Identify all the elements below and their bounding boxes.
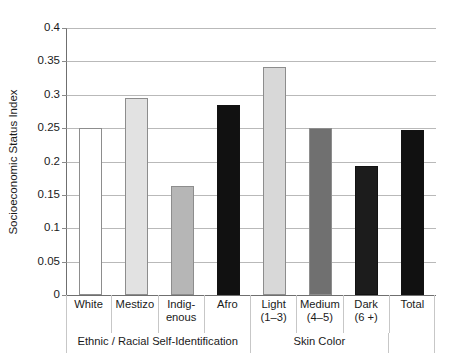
category-label-line2: enous <box>166 311 196 324</box>
category-label-line1: Medium <box>300 298 340 311</box>
y-axis-tick-label: 0.35 <box>38 56 60 68</box>
gridline <box>67 195 436 196</box>
plot-area <box>66 28 435 295</box>
bar <box>263 67 286 295</box>
bar-chart-figure: Socioeconomic Status Index 00.050.10.150… <box>0 0 453 364</box>
category-label: Afro <box>205 295 251 333</box>
category-label: Medium(4–5) <box>297 295 343 333</box>
bar <box>125 98 148 295</box>
y-axis-tick-label: 0.25 <box>38 122 60 134</box>
gridline <box>67 228 436 229</box>
y-axis-tick-mark <box>62 262 67 263</box>
y-axis-tick-label: 0.1 <box>44 223 60 235</box>
category-label-line1: Dark <box>354 298 378 311</box>
y-axis-tick-mark <box>62 162 67 163</box>
bar <box>171 186 194 295</box>
category-label-line1: Total <box>401 298 425 311</box>
category-label-line1: Afro <box>217 298 238 311</box>
y-axis-title: Socioeconomic Status Index <box>4 28 22 295</box>
gridline <box>67 128 436 129</box>
category-label: Indig-enous <box>159 295 205 333</box>
category-label: White <box>66 295 112 333</box>
y-axis-tick-label: 0.2 <box>44 156 60 168</box>
category-label: Dark(6 +) <box>344 295 390 333</box>
gridline <box>67 28 436 29</box>
group-label <box>389 333 435 353</box>
category-label-line2: (1–3) <box>261 311 287 324</box>
gridline <box>67 162 436 163</box>
gridline <box>67 95 436 96</box>
y-axis-tick-mark <box>62 228 67 229</box>
y-axis-tick-label: 0.15 <box>38 189 60 201</box>
y-axis-tick-label: 0 <box>54 289 60 301</box>
y-axis-tick-mark <box>62 28 67 29</box>
y-axis-tick-label: 0.4 <box>44 22 60 34</box>
category-label-line2: (6 +) <box>354 311 377 324</box>
y-axis-tick-mark <box>62 95 67 96</box>
category-label: Mestizo <box>112 295 158 333</box>
y-axis-tick-label: 0.05 <box>38 256 60 268</box>
category-label: Light(1–3) <box>251 295 297 333</box>
group-label-row: Ethnic / Racial Self-IdentificationSkin … <box>66 333 435 353</box>
category-label-row: WhiteMestizoIndig-enousAfroLight(1–3)Med… <box>66 295 435 333</box>
category-label-line1: Indig- <box>167 298 195 311</box>
group-label: Ethnic / Racial Self-Identification <box>66 333 251 353</box>
category-label-line1: White <box>74 298 103 311</box>
gridline <box>67 61 436 62</box>
category-label-line1: Light <box>261 298 285 311</box>
bar <box>217 105 240 295</box>
figure-caption <box>0 355 453 364</box>
bar <box>309 128 332 295</box>
category-label-line1: Mestizo <box>116 298 155 311</box>
bar <box>401 130 424 295</box>
y-axis-tick-labels: 00.050.10.150.20.250.30.350.4 <box>24 28 64 295</box>
bar <box>79 128 102 295</box>
group-label: Skin Color <box>251 333 390 353</box>
gridline <box>67 262 436 263</box>
bar <box>355 166 378 295</box>
category-label-line2: (4–5) <box>307 311 333 324</box>
y-axis-title-label: Socioeconomic Status Index <box>7 89 19 234</box>
category-label: Total <box>390 295 435 333</box>
y-axis-tick-mark <box>62 61 67 62</box>
y-axis-tick-mark <box>62 195 67 196</box>
y-axis-tick-mark <box>62 128 67 129</box>
y-axis-tick-label: 0.3 <box>44 89 60 101</box>
